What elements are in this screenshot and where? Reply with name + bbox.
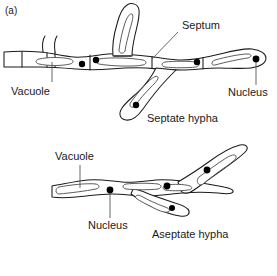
aseptate-nucleus-branch-up [204,167,211,174]
caption-aseptate-hypha: Aseptate hypha [152,228,229,240]
caption-septate-hypha: Septate hypha [147,112,219,124]
aseptate-nucleus-branch-down [169,205,175,211]
diagram-canvas: (a) [0,0,277,276]
septate-nucleus-3 [194,59,200,65]
hyphae-diagram-figure: (a) [0,0,277,276]
label-nucleus-aseptate: Nucleus [88,219,128,231]
panel-label: (a) [5,5,17,16]
septate-hypha-group: Vacuole Septum Nucleus Septate hypha [4,4,268,124]
septate-nucleus-1 [79,61,85,67]
aseptate-nucleus-2 [164,183,171,190]
aseptate-hypha-group: Vacuole Nucleus Aseptate hypha [52,145,247,240]
septate-hypha-stub-branch-2 [55,36,57,52]
label-vacuole-septate: Vacuole [11,85,50,97]
septum-leader-line [152,32,178,59]
septate-vacuole-1 [36,58,73,66]
label-nucleus-septate: Nucleus [228,86,268,98]
septate-nucleus-apical [253,56,260,63]
septate-nucleus-branch [133,102,139,108]
septate-hypha-stub-branch [43,36,45,52]
septate-vacuole-2 [96,58,146,66]
aseptate-nucleus-1 [107,187,114,194]
septate-vacuole-3 [162,61,199,68]
label-septum: Septum [182,19,220,31]
septate-nucleus-2 [93,57,99,63]
aseptate-vacuole-2 [123,183,161,190]
label-vacuole-aseptate: Vacuole [55,150,94,162]
